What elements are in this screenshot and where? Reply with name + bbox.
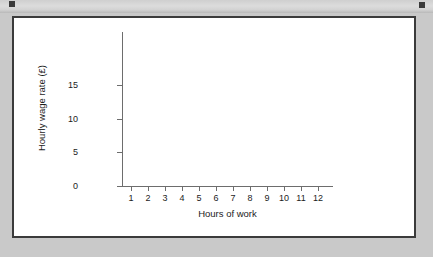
x-axis-tick <box>318 186 319 191</box>
x-axis-tick <box>301 186 302 191</box>
x-axis-tick-label: 7 <box>225 194 241 203</box>
x-axis-tick-label: 10 <box>276 194 292 203</box>
y-axis-tick-label: 15 <box>48 81 78 90</box>
x-axis-tick <box>284 186 285 191</box>
x-axis-tick-label: 2 <box>140 194 156 203</box>
x-axis-tick-label: 3 <box>157 194 173 203</box>
page-canvas: 0 5 10 15 1 2 3 4 5 6 7 8 <box>0 0 433 257</box>
y-axis-line <box>122 32 123 187</box>
x-axis-tick-label: 11 <box>293 194 309 203</box>
empty-axes-chart: 0 5 10 15 1 2 3 4 5 6 7 8 <box>14 18 414 236</box>
scan-top-gradient-band <box>0 0 433 13</box>
y-axis-tick <box>117 186 122 187</box>
figure-panel: 0 5 10 15 1 2 3 4 5 6 7 8 <box>12 16 416 238</box>
x-axis-tick-label: 6 <box>208 194 224 203</box>
x-axis-tick-label: 5 <box>191 194 207 203</box>
x-axis-tick <box>267 186 268 191</box>
scan-artifact-speck-right <box>419 2 425 8</box>
y-axis-tick <box>117 85 122 86</box>
y-axis-tick-label: 10 <box>48 115 78 124</box>
x-axis-tick <box>199 186 200 191</box>
x-axis-tick <box>216 186 217 191</box>
x-axis-tick <box>148 186 149 191</box>
y-axis-title: Hourly wage rate (£) <box>36 31 48 186</box>
x-axis-tick <box>165 186 166 191</box>
x-axis-tick <box>182 186 183 191</box>
x-axis-tick <box>233 186 234 191</box>
y-axis-tick-label: 0 <box>48 182 78 191</box>
x-axis-tick-label: 8 <box>242 194 258 203</box>
x-axis-tick-label: 9 <box>259 194 275 203</box>
x-axis-tick-label: 12 <box>310 194 326 203</box>
x-axis-tick-label: 1 <box>123 194 139 203</box>
x-axis-tick-label: 4 <box>174 194 190 203</box>
y-axis-tick <box>117 119 122 120</box>
y-axis-tick <box>117 152 122 153</box>
x-axis-tick <box>131 186 132 191</box>
x-axis-tick <box>250 186 251 191</box>
y-axis-tick-label: 5 <box>48 148 78 157</box>
scan-artifact-speck-left <box>9 1 15 7</box>
x-axis-title: Hours of work <box>122 208 333 219</box>
